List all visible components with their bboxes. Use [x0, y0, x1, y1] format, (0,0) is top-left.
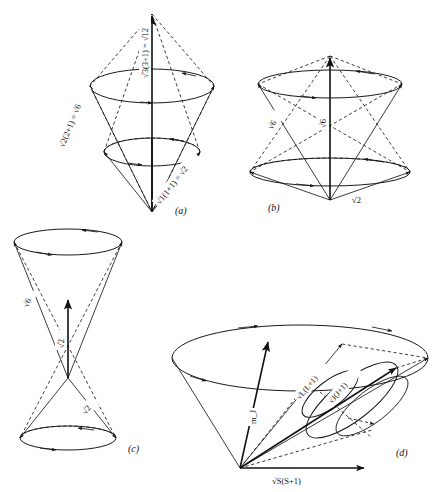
panel-b: √6 √6 √2 (b) — [250, 56, 410, 214]
panel-a-label-l2: √2(2+1) = √6 — [57, 102, 83, 148]
panel-c-upper-slant-right — [68, 242, 122, 378]
panel-a-lower-slant-left — [104, 152, 152, 212]
panel-c-caption: (c) — [128, 443, 140, 455]
panel-d-label-mj: m_J — [248, 409, 258, 424]
panel-c-lower-rim-back — [20, 426, 116, 438]
panel-b-slant-left — [258, 84, 330, 200]
panel-b-label-base: √2 — [352, 195, 361, 205]
panel-c-lower-rim-arrow-2 — [78, 428, 94, 430]
panel-b-label-axis: √6 — [318, 119, 328, 128]
panel-c-upper-rim-arrow — [36, 252, 52, 255]
panel-a-top-dashed-right — [152, 14, 214, 86]
panel-d-mj-axis — [240, 342, 268, 468]
panel-d-outer-rim-arrow — [190, 376, 206, 381]
panel-c-label-axis: √2 — [56, 339, 66, 348]
panel-d-outer-rim — [172, 325, 428, 391]
panel-b-caption: (b) — [268, 202, 280, 214]
angular-momentum-vector-figure: √3(3+1) = √12 √2(2+1) = √6 √1(1+1) = √2 … — [0, 0, 442, 492]
panel-a-dashed-mid-right — [152, 14, 200, 152]
panel-a-label-l1: √1(1+1) = √2 — [154, 164, 190, 206]
panel-b-lower-rim-arrow-2 — [364, 159, 384, 162]
panel-d-outer-rim-arrow-3 — [372, 327, 392, 331]
panel-d-label-s: √S(S+1) — [272, 476, 301, 486]
panel-d-caption: (d) — [396, 447, 408, 459]
panel-a-label-l3: √3(3+1) = √12 — [140, 28, 150, 78]
panel-d-outer-slant-left — [172, 358, 240, 468]
panel-d: m_J √L(L+1) √J(J+1) √S(S+1) (d) — [172, 325, 428, 486]
panel-b-slant-right — [330, 84, 402, 200]
panel-d-s-rim — [327, 366, 416, 445]
panel-c: √6 √2 √2 (c) — [14, 229, 140, 455]
panel-a-caption: (a) — [175, 205, 187, 217]
panel-c-upper-slant-left — [14, 242, 68, 378]
panel-c-dashed-right — [20, 242, 122, 438]
panel-a: √3(3+1) = √12 √2(2+1) = √6 √1(1+1) = √2 … — [55, 6, 214, 217]
panel-a-lower-rim-arrow-2 — [170, 139, 184, 141]
panel-d-dash-4 — [240, 430, 372, 468]
panel-d-dash-2 — [342, 344, 428, 358]
panel-c-upper-rim — [14, 229, 122, 255]
panel-c-lower-slant-left — [20, 378, 68, 438]
